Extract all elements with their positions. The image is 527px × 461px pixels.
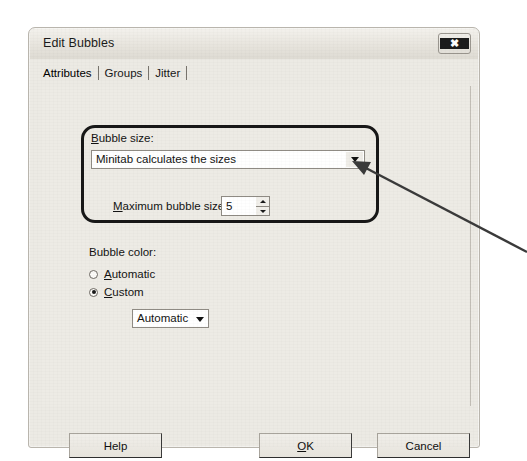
cancel-button[interactable]: Cancel [377, 433, 470, 458]
edit-bubbles-dialog: Edit Bubbles ✖ Attributes Groups Jitter … [28, 27, 480, 448]
tab-separator [98, 66, 99, 80]
radio-label-automatic: Automatic [104, 268, 155, 280]
tab-groups[interactable]: Groups [105, 67, 149, 79]
ok-button[interactable]: OK [259, 433, 352, 458]
radio-label-custom: Custom [104, 286, 144, 298]
dialog-titlebar: Edit Bubbles ✖ [30, 29, 478, 59]
page-background: Edit Bubbles ✖ Attributes Groups Jitter … [0, 0, 527, 461]
bubble-color-label: Bubble color: [89, 246, 156, 258]
radio-bubble-color-custom[interactable]: Custom [89, 286, 144, 298]
radio-icon-selected [89, 288, 98, 297]
tab-separator [148, 66, 149, 80]
custom-color-combo-value: Automatic [137, 312, 188, 324]
close-button[interactable]: ✖ [438, 33, 471, 54]
tab-separator [186, 66, 187, 80]
close-icon: ✖ [439, 36, 470, 51]
chevron-down-icon[interactable] [194, 314, 205, 324]
dialog-title: Edit Bubbles [43, 36, 114, 50]
tab-jitter[interactable]: Jitter [155, 67, 186, 79]
radio-icon [89, 270, 98, 279]
help-button[interactable]: Help [69, 433, 162, 458]
tab-attributes[interactable]: Attributes [43, 67, 98, 79]
tab-strip: Attributes Groups Jitter [43, 63, 193, 83]
custom-color-combo[interactable]: Automatic [132, 309, 209, 328]
annotation-highlight-box [81, 125, 379, 223]
radio-bubble-color-automatic[interactable]: Automatic [89, 268, 155, 280]
